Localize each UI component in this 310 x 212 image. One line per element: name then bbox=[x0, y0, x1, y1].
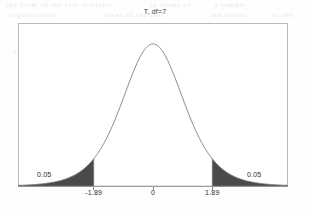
distribution-plot bbox=[18, 23, 288, 187]
density-curve bbox=[18, 44, 288, 185]
x-tick-label-positive: 1.89 bbox=[192, 189, 232, 196]
figure-canvas: the form of the test statisticin terms o… bbox=[0, 0, 310, 212]
x-tick-label-negative: -1.89 bbox=[74, 189, 114, 196]
x-tick-label-zero: 0 bbox=[133, 189, 173, 196]
tail-area-label-left: 0.05 bbox=[37, 171, 51, 178]
tail-area-label-right: 0.05 bbox=[247, 171, 261, 178]
critical-value-lines bbox=[94, 159, 213, 186]
chart-title: T, df=7 bbox=[0, 8, 310, 15]
